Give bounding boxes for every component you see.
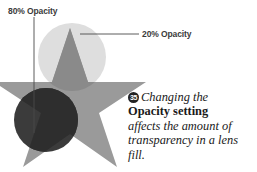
caption-line-4: transparency in a lens xyxy=(128,133,238,147)
caption-line-2: Opacity setting xyxy=(128,104,208,118)
callout-label-20-opacity: 20% Opacity xyxy=(142,29,191,39)
caption-line-5: fill. xyxy=(128,148,145,162)
caption-number-badge: 35 xyxy=(128,92,139,103)
figure-caption: 35Changing the Opacity setting affects t… xyxy=(128,90,254,162)
opacity-lens-fill-figure: 80% Opacity 20% Opacity 35Changing the O… xyxy=(0,0,257,172)
callout-label-80-opacity: 80% Opacity xyxy=(8,6,57,16)
caption-line-1: Changing the xyxy=(141,90,208,104)
caption-line-3: affects the amount of xyxy=(128,119,232,133)
